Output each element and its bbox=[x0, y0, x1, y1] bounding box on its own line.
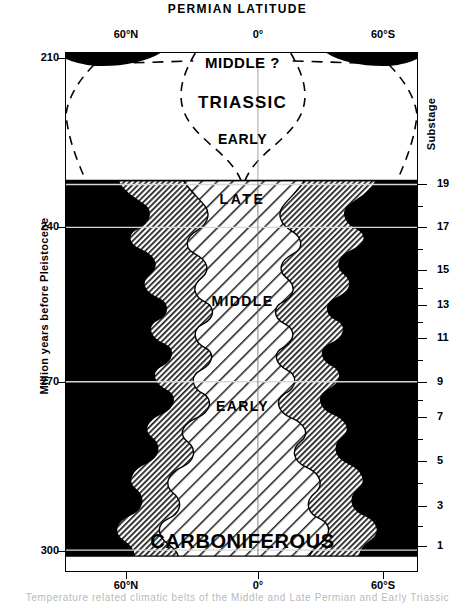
tickmark-substage-13 bbox=[418, 305, 427, 306]
substage-tick-3: 3 bbox=[437, 499, 467, 511]
y-tick-270: 270 bbox=[19, 375, 59, 387]
tickmark-substage-19 bbox=[418, 184, 427, 185]
x-tick-top-60s: 60°S bbox=[353, 28, 413, 40]
x-tick-bottom-60s: 60°S bbox=[353, 579, 413, 591]
y-tick-300: 300 bbox=[19, 544, 59, 556]
triassic-background bbox=[66, 53, 417, 181]
y-axis-label-right: Substage bbox=[425, 64, 437, 184]
tickmark-substage-9 bbox=[418, 382, 427, 383]
tickmark-substage-10 bbox=[418, 360, 423, 361]
tickmark-lat-60n-bottom bbox=[126, 572, 127, 579]
tickmark-substage-11 bbox=[418, 338, 427, 339]
substage-tick-1: 1 bbox=[437, 539, 467, 551]
y-tick-240: 240 bbox=[19, 220, 59, 232]
label-early-permian: EARLY bbox=[66, 398, 418, 414]
substage-tick-7: 7 bbox=[437, 410, 467, 422]
bottom-white-strip bbox=[66, 556, 417, 571]
substage-tick-15: 15 bbox=[437, 263, 467, 275]
x-tick-top-0: 0° bbox=[228, 28, 288, 40]
label-triassic: TRIASSIC bbox=[66, 93, 418, 113]
label-carboniferous: CARBONIFEROUS bbox=[66, 530, 418, 553]
label-late-permian: LATE bbox=[66, 191, 418, 207]
tickmark-lat-0-bottom bbox=[258, 572, 259, 579]
tickmark-substage-4 bbox=[418, 483, 423, 484]
tickmark-substage-12 bbox=[418, 322, 423, 323]
page-title: PERMIAN LATITUDE bbox=[0, 2, 475, 16]
tickmark-substage-8 bbox=[418, 400, 423, 401]
substage-tick-13: 13 bbox=[437, 298, 467, 310]
label-early-triassic: EARLY bbox=[66, 131, 418, 147]
x-tick-bottom-60n: 60°N bbox=[96, 579, 156, 591]
substage-tick-19: 19 bbox=[437, 177, 467, 189]
x-tick-top-60n: 60°N bbox=[96, 28, 156, 40]
permian-belt-group bbox=[66, 181, 417, 571]
figure-caption: Temperature related climatic belts of th… bbox=[0, 592, 475, 606]
tickmark-substage-14 bbox=[418, 288, 423, 289]
tickmark-substage-7 bbox=[418, 417, 427, 418]
substage-tick-9: 9 bbox=[437, 375, 467, 387]
tickmark-lat-60s-bottom bbox=[383, 572, 384, 579]
tickmark-substage-15 bbox=[418, 270, 427, 271]
tickmark-substage-17 bbox=[418, 227, 427, 228]
climate-belt-plot: MIDDLE ? TRIASSIC EARLY LATE MIDDLE EARL… bbox=[65, 52, 418, 572]
tickmark-substage-1 bbox=[418, 546, 427, 547]
tickmark-substage-6 bbox=[418, 439, 423, 440]
substage-tick-11: 11 bbox=[437, 331, 467, 343]
y-axis-label-left: Million years before Pleistocene bbox=[38, 176, 50, 436]
triassic-group bbox=[66, 53, 417, 181]
y-tick-210: 210 bbox=[19, 51, 59, 63]
label-middle-triassic: MIDDLE ? bbox=[66, 54, 418, 71]
tickmark-substage-5 bbox=[418, 461, 427, 462]
substage-tick-17: 17 bbox=[437, 220, 467, 232]
label-middle-permian: MIDDLE bbox=[66, 293, 418, 309]
tickmark-substage-18 bbox=[418, 206, 423, 207]
tickmark-substage-2 bbox=[418, 526, 423, 527]
substage-tick-5: 5 bbox=[437, 454, 467, 466]
x-tick-bottom-0: 0° bbox=[228, 579, 288, 591]
tickmark-substage-16 bbox=[418, 249, 423, 250]
tickmark-substage-3 bbox=[418, 506, 427, 507]
